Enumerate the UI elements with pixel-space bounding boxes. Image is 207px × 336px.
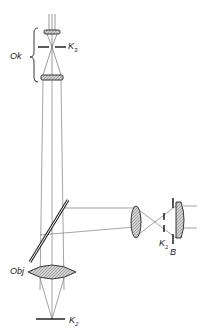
- eyepiece-eye-lens: [44, 30, 60, 34]
- label-k1: K1: [159, 238, 168, 250]
- label-b: B: [170, 247, 176, 257]
- label-k3: K3: [68, 41, 77, 53]
- label-ok: Ok: [10, 51, 22, 61]
- eyepiece-field-lens: [41, 75, 63, 80]
- objective-lens: [28, 265, 76, 279]
- b-lens: [176, 202, 184, 238]
- label-k2: K2: [69, 315, 78, 327]
- tube-rays: [40, 80, 64, 319]
- top-rays: [49, 14, 55, 30]
- label-obj: Obj: [10, 266, 24, 276]
- side-lens: [131, 206, 141, 238]
- optical-diagram: [0, 0, 207, 336]
- ok-brace: [30, 28, 38, 82]
